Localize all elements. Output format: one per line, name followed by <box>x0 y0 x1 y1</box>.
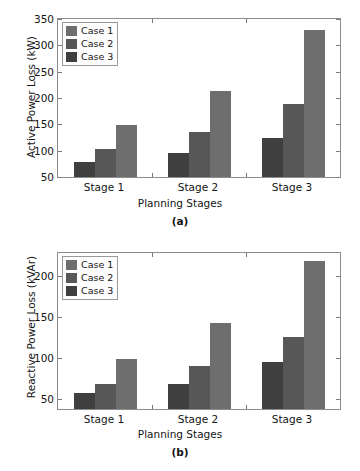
legend-label: Case 1 <box>81 26 113 36</box>
y-tick-label: 50 <box>41 171 54 183</box>
bar <box>262 362 283 409</box>
y-tick-label: 100 <box>34 145 54 157</box>
plot-area-a: 50100150200250300350 Case 1Case 2Case 3 <box>57 18 341 178</box>
bar <box>304 30 325 177</box>
bar <box>210 323 231 409</box>
legend-row: Case 3 <box>66 285 113 297</box>
y-tick-label: 200 <box>34 92 54 104</box>
legend-swatch-icon <box>66 260 77 270</box>
y-tick-mark <box>58 177 62 178</box>
legend-label: Case 1 <box>81 260 113 270</box>
x-category-label: Stage 1 <box>84 413 124 425</box>
legend-row: Case 1 <box>66 259 113 271</box>
x-tick-mark <box>152 405 153 409</box>
legend-row: Case 3 <box>66 51 113 63</box>
y-tick-mark-right <box>336 72 340 73</box>
bar <box>304 261 325 409</box>
y-tick-mark-right <box>336 177 340 178</box>
x-category-label: Stage 2 <box>178 413 218 425</box>
y-tick-mark <box>58 19 62 20</box>
legend-row: Case 1 <box>66 25 113 37</box>
x-axis-label-b: Planning Stages <box>0 428 360 440</box>
y-tick-mark <box>58 124 62 125</box>
y-tick-label: 200 <box>34 270 54 282</box>
bar <box>74 162 95 177</box>
y-tick-mark <box>58 399 62 400</box>
legend-label: Case 2 <box>81 39 113 49</box>
x-tick-mark <box>246 405 247 409</box>
legend-swatch-icon <box>66 26 77 36</box>
x-category-label: Stage 3 <box>272 181 312 193</box>
legend-swatch-icon <box>66 273 77 283</box>
bar <box>95 384 116 409</box>
figure-panel-b: Reactive Power Loss (kVAr) 50100150200 C… <box>0 238 360 471</box>
bar <box>210 91 231 177</box>
bar <box>116 125 137 177</box>
y-tick-mark-right <box>336 98 340 99</box>
y-tick-mark-right <box>336 151 340 152</box>
y-tick-mark-right <box>336 358 340 359</box>
bar <box>116 359 137 409</box>
legend-label: Case 2 <box>81 273 113 283</box>
bar <box>168 384 189 409</box>
y-axis-label-a-wrap: Active Power Loss (kW) <box>8 18 24 176</box>
bar <box>168 153 189 177</box>
legend-swatch-icon <box>66 52 77 62</box>
x-tick-mark <box>152 173 153 177</box>
bar <box>95 149 116 177</box>
figure-panel-a: Active Power Loss (kW) 50100150200250300… <box>0 0 360 238</box>
y-tick-mark-right <box>336 317 340 318</box>
y-tick-mark-right <box>336 399 340 400</box>
panel-tag-a: (a) <box>0 215 360 227</box>
y-tick-mark <box>58 151 62 152</box>
x-tick-mark-top <box>152 253 153 257</box>
panel-tag-b: (b) <box>0 446 360 458</box>
bar <box>283 104 304 177</box>
y-tick-mark-right <box>336 276 340 277</box>
y-tick-mark-right <box>336 19 340 20</box>
y-tick-label: 300 <box>34 39 54 51</box>
y-tick-label: 150 <box>34 118 54 130</box>
y-tick-mark-right <box>336 45 340 46</box>
y-tick-mark <box>58 317 62 318</box>
legend-swatch-icon <box>66 39 77 49</box>
x-category-label: Stage 3 <box>272 413 312 425</box>
legend-a: Case 1Case 2Case 3 <box>62 22 118 66</box>
y-tick-mark-right <box>336 124 340 125</box>
y-tick-mark <box>58 72 62 73</box>
x-category-label: Stage 1 <box>84 181 124 193</box>
x-tick-mark <box>246 173 247 177</box>
legend-label: Case 3 <box>81 52 113 62</box>
legend-label: Case 3 <box>81 286 113 296</box>
x-tick-mark-top <box>246 19 247 23</box>
x-axis-label-a: Planning Stages <box>0 197 360 209</box>
legend-b: Case 1Case 2Case 3 <box>62 256 118 300</box>
x-category-label: Stage 2 <box>178 181 218 193</box>
y-tick-label: 100 <box>34 352 54 364</box>
y-axis-label-b-wrap: Reactive Power Loss (kVAr) <box>8 252 24 402</box>
y-tick-label: 150 <box>34 311 54 323</box>
y-tick-label: 50 <box>41 393 54 405</box>
y-tick-mark <box>58 98 62 99</box>
legend-row: Case 2 <box>66 38 113 50</box>
bar <box>283 337 304 409</box>
bar <box>189 132 210 177</box>
x-tick-mark-top <box>152 19 153 23</box>
y-tick-label: 250 <box>34 66 54 78</box>
y-tick-label: 350 <box>34 13 54 25</box>
x-tick-mark-top <box>246 253 247 257</box>
legend-swatch-icon <box>66 286 77 296</box>
y-tick-mark <box>58 358 62 359</box>
bar <box>74 393 95 409</box>
legend-row: Case 2 <box>66 272 113 284</box>
bar <box>262 138 283 178</box>
bar <box>189 366 210 409</box>
plot-area-b: 50100150200 Case 1Case 2Case 3 <box>57 252 341 410</box>
